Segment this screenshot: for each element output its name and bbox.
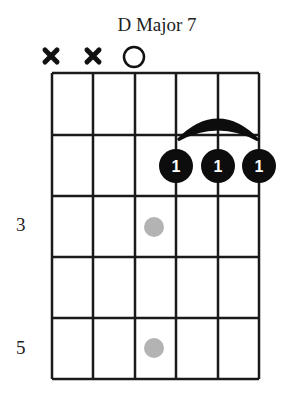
finger-dot: 1 [159,149,193,183]
mute-icon [87,50,99,62]
svg-text:1: 1 [255,158,264,175]
svg-text:1: 1 [214,158,223,175]
inlay-marker [144,338,164,358]
inlay-marker [144,217,164,237]
finger-dot: 1 [242,149,276,183]
mute-icon [45,50,57,62]
chord-diagram: 1 1 1 [0,0,294,395]
svg-text:1: 1 [172,158,181,175]
finger-dot: 1 [201,149,235,183]
open-string-icon [124,47,144,67]
